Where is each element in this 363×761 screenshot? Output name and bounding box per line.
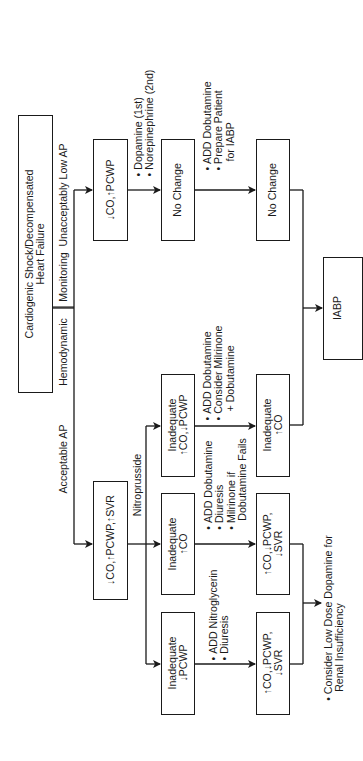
outcome2-actions: ADD Dobutamine Diuresis Milrinone if Dob… [203, 438, 249, 529]
branch-label-acceptable-ap: Acceptable AP [58, 425, 69, 494]
low-ap-state-text: ↓CO,↑PCWP [105, 159, 116, 220]
outcome2-text: Inadequate ↑CO [167, 517, 190, 570]
outcome2-result-text: ↑CO,↓PCWP, ↓SVR [262, 513, 285, 576]
outcome1-result-line-2: ↑CO [273, 398, 284, 451]
final-note-line-2: Renal Insufficiency [334, 535, 345, 701]
iabp-text: IABP [332, 296, 343, 320]
outcome3-action-2: Diuresis [219, 570, 230, 661]
action-for-iabp: for IABP [225, 81, 236, 170]
outcome3-actions: ADD Nitroglycerin Diuresis [208, 570, 231, 661]
action-norepinephrine: Norepinephrine (2nd) [144, 70, 155, 177]
outcome3-text: Inadequate ↓PCWP [167, 636, 190, 689]
branch-label-nitroprusside: Nitroprusside [132, 454, 143, 516]
outcome1-actions: ADD Dobutamine Consider Milrinone + Dobu… [202, 326, 236, 421]
final-note: Consider Low Dose Dopamine for Renal Ins… [323, 535, 346, 701]
outcome3-result-line-2: ↓SVR [273, 632, 284, 695]
low-ap-result2-text: No Change [267, 163, 278, 217]
low-ap-result1-text: No Change [172, 163, 183, 217]
outcome1-text: Inadequate ↑CO,↓PCWP [167, 394, 190, 455]
outcome3-result-text: ↑CO,↓PCWP, ↓SVR [262, 632, 285, 695]
low-ap-step2-actions: ADD Dobutamine Prepare Patient for IABP [202, 81, 236, 170]
outcome3-line-2: ↓PCWP [178, 636, 189, 689]
outcome2-line-2: ↑CO [178, 517, 189, 570]
outcome1-result-text: Inadequate ↑CO [262, 398, 285, 451]
low-ap-step1-actions: Dopamine (1st) Norepinephrine (2nd) [133, 70, 156, 177]
branch-label-unacceptably-low-ap: Unacceptably Low AP [58, 143, 69, 246]
outcome2-action-4: Dobutamine Fails [237, 438, 248, 529]
outcome1-line-2: ↑CO,↓PCWP [178, 394, 189, 455]
acceptable-ap-state-text: ↓CO,↑PCWP,↑SVR [105, 495, 116, 585]
outcome1-action-3: + Dobutamine [225, 326, 236, 421]
outcome2-result-line-2: ↓SVR [273, 513, 284, 576]
